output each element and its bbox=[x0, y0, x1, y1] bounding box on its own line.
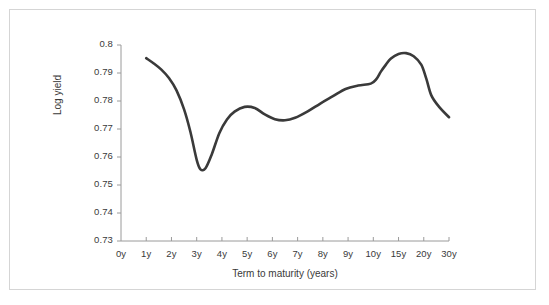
figure-canvas: 0.730.740.750.760.770.780.790.8 0y1y2y3y… bbox=[0, 0, 549, 305]
y-axis-tick-label: 0.73 bbox=[75, 234, 113, 245]
x-axis-title: Term to maturity (years) bbox=[121, 268, 449, 279]
y-axis-tick-label: 0.78 bbox=[75, 94, 113, 105]
y-axis-tick-label: 0.75 bbox=[75, 178, 113, 189]
y-axis-ticks bbox=[117, 45, 121, 241]
x-axis-tick-label: 30y bbox=[432, 248, 466, 259]
y-axis-tick-label: 0.79 bbox=[75, 66, 113, 77]
x-axis-ticks bbox=[146, 237, 449, 241]
y-axis-tick-label: 0.77 bbox=[75, 122, 113, 133]
y-axis-tick-label: 0.8 bbox=[75, 38, 113, 49]
y-axis-tick-label: 0.74 bbox=[75, 206, 113, 217]
y-axis-title: Log yield bbox=[52, 75, 63, 115]
y-axis-tick-label: 0.76 bbox=[75, 150, 113, 161]
yield-curve-line bbox=[146, 53, 449, 170]
